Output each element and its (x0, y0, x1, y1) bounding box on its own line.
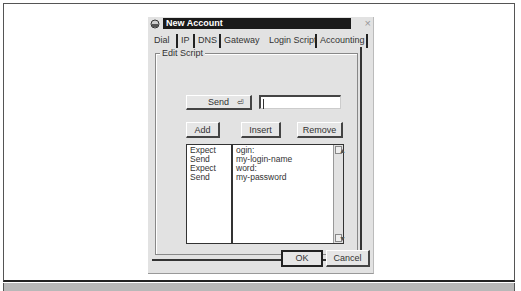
phone-icon (150, 19, 160, 29)
scroll-up-icon[interactable]: ▲ (335, 146, 342, 154)
text-caret (263, 99, 264, 109)
tab-accounting[interactable]: Accounting (320, 34, 365, 47)
tab-dns[interactable]: DNS (198, 34, 217, 47)
tab-separator (219, 34, 221, 48)
vertical-scrollbar[interactable]: ▲ ▼ (333, 145, 343, 243)
list-item[interactable]: my-password (233, 173, 343, 182)
caption-bar (3, 283, 515, 291)
tab-login-script[interactable]: Login Script (269, 34, 317, 47)
edit-script-group: Edit Script Send ⏎ Add Insert Remove Exp… (155, 53, 358, 255)
tab-separator (176, 34, 178, 48)
action-list[interactable]: Expect Send Expect Send (186, 144, 232, 244)
insert-button[interactable]: Insert (241, 122, 281, 138)
tab-separator (315, 34, 317, 48)
scroll-down-icon[interactable]: ▼ (335, 234, 342, 242)
ok-button[interactable]: OK (281, 250, 323, 267)
add-button[interactable]: Add (186, 122, 220, 138)
send-dropdown[interactable]: Send ⏎ (186, 95, 252, 110)
tab-dial[interactable]: Dial (154, 34, 170, 47)
send-dropdown-label: Send (208, 97, 229, 107)
tab-gateway[interactable]: Gateway (224, 34, 260, 47)
tab-bar: Dial IP DNS Gateway Login Script Account… (148, 34, 373, 48)
value-list[interactable]: ogin: my-login-name word: my-password ▲ … (232, 144, 344, 244)
close-icon[interactable]: × (365, 17, 371, 29)
cancel-button[interactable]: Cancel (326, 250, 370, 267)
group-label: Edit Script (160, 48, 205, 58)
tab-separator (366, 34, 368, 48)
tab-ip[interactable]: IP (181, 34, 190, 47)
dialog-title: New Account (163, 18, 351, 29)
new-account-dialog: New Account × Dial IP DNS Gateway Login … (148, 17, 374, 274)
list-item[interactable]: Send (187, 173, 231, 182)
dropdown-indicator-icon: ⏎ (237, 96, 244, 109)
login-script-panel: Edit Script Send ⏎ Add Insert Remove Exp… (152, 47, 362, 261)
tab-separator (193, 34, 195, 48)
script-value-input[interactable] (259, 95, 341, 109)
remove-button[interactable]: Remove (297, 122, 343, 138)
title-bar[interactable]: New Account × (150, 18, 373, 30)
